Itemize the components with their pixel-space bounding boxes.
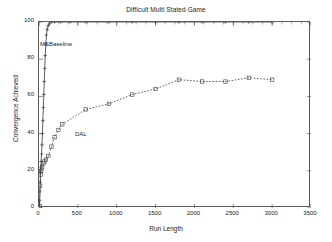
x-tick-label: 2000 bbox=[178, 210, 208, 216]
x-tick-label: 3000 bbox=[256, 210, 286, 216]
x-tick-label: 500 bbox=[62, 210, 92, 216]
x-axis-label: Run Length bbox=[0, 225, 332, 232]
x-tick-label: 1000 bbox=[101, 210, 131, 216]
plot-canvas bbox=[39, 22, 311, 208]
annotation-msbaseline: MSBaseline bbox=[40, 41, 72, 47]
y-axis-label: Convergence Achieved bbox=[12, 54, 19, 164]
annotation-dal: DAL bbox=[75, 131, 87, 137]
x-tick-label: 2500 bbox=[217, 210, 247, 216]
plot-area bbox=[38, 21, 310, 207]
y-tick-label: 0 bbox=[14, 203, 34, 209]
x-tick-label: 3500 bbox=[295, 210, 325, 216]
y-tick-label: 100 bbox=[14, 17, 34, 23]
x-tick-label: 0 bbox=[23, 210, 53, 216]
x-tick-label: 1500 bbox=[140, 210, 170, 216]
chart-title: Difficult Multi Stated Game bbox=[0, 6, 332, 13]
chart-figure: Difficult Multi Stated Game 020406080100… bbox=[0, 0, 332, 242]
y-tick-label: 20 bbox=[14, 166, 34, 172]
